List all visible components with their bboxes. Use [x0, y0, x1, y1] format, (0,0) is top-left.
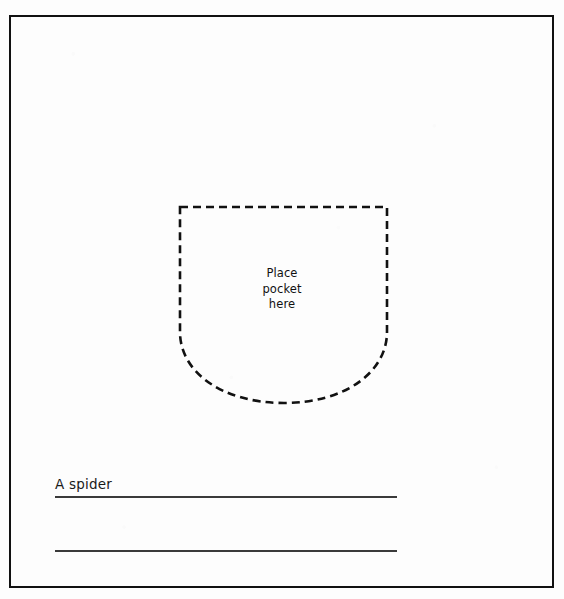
instruction-line-1: Place — [232, 266, 332, 282]
writing-line-1 — [55, 496, 397, 498]
writing-line-2 — [55, 550, 397, 552]
worksheet-page: Place pocket here A spider — [0, 0, 564, 599]
pocket-instruction-text: Place pocket here — [232, 266, 332, 313]
instruction-line-2: pocket — [232, 282, 332, 298]
instruction-line-3: here — [232, 297, 332, 313]
caption-handwriting: A spider — [55, 476, 112, 492]
